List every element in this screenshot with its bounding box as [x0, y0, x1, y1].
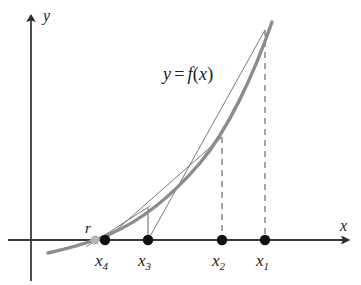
point-marker-x1 [260, 235, 270, 245]
secant-line-x1-x2 [148, 30, 265, 240]
diagram-canvas [0, 0, 361, 285]
point-label-x1-sub: 1 [264, 260, 270, 272]
point-label-x3: x3 [138, 252, 151, 269]
point-marker-x4 [100, 235, 110, 245]
point-label-x2-sub: 2 [220, 260, 226, 272]
root-point-marker [90, 235, 99, 244]
function-label-x: x [199, 64, 207, 84]
secant-method-diagram: y x y=f(x) r x4 x3 x2 x1 [0, 0, 361, 285]
function-label: y=f(x) [163, 65, 213, 83]
point-label-x4: x4 [95, 252, 108, 269]
x-axis-label: x [340, 218, 347, 234]
point-label-x3-base: x [138, 251, 146, 270]
point-marker-x2 [217, 235, 227, 245]
secant-line-x2-x3 [105, 137, 222, 240]
point-label-x4-sub: 4 [103, 260, 109, 272]
point-label-x1: x1 [256, 252, 269, 269]
function-label-y: y [163, 64, 171, 84]
point-label-x4-base: x [95, 251, 103, 270]
point-label-x2-base: x [212, 251, 220, 270]
y-axis-label: y [43, 8, 50, 24]
point-label-x3-sub: 3 [146, 260, 152, 272]
function-label-close-paren: ) [207, 64, 213, 84]
point-marker-x3 [143, 235, 153, 245]
function-label-equals: = [171, 64, 187, 84]
point-label-x2: x2 [212, 252, 225, 269]
root-label: r [85, 221, 91, 236]
point-label-x1-base: x [256, 251, 264, 270]
